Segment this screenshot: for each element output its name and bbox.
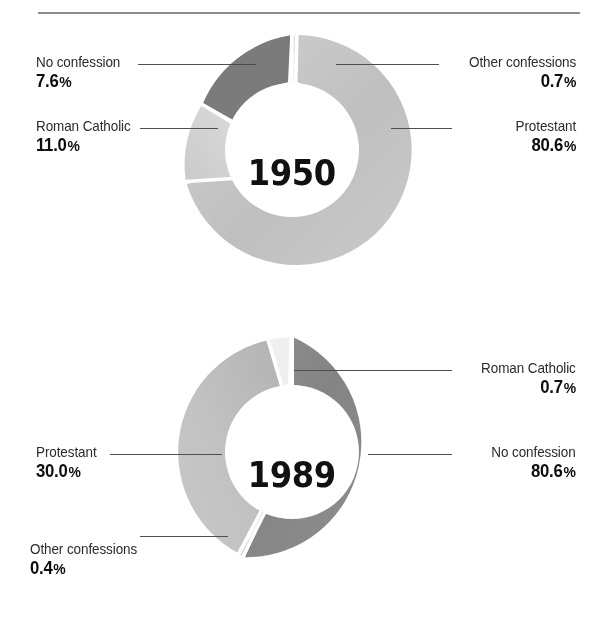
callout-value: 11.0% — [36, 136, 131, 155]
percent-sign: % — [68, 463, 80, 480]
donut-chart-1950 — [170, 28, 414, 318]
callout-value: 7.6% — [36, 72, 120, 91]
callout-value: 30.0% — [36, 462, 97, 481]
callout-value: 0.7% — [481, 378, 576, 397]
figure-root: 1950 No confession 7.6% Roman Catholic 1… — [0, 0, 590, 634]
leader-line-roman-catholic-1989 — [294, 370, 452, 371]
leader-line-protestant-1989 — [110, 454, 222, 455]
callout-value: 80.6% — [492, 462, 576, 481]
callout-no-confession-1950: No confession 7.6% — [36, 55, 127, 91]
callout-roman-catholic-1989: Roman Catholic 0.7% — [474, 361, 576, 397]
callout-protestant-1950: Protestant 80.6% — [511, 119, 576, 155]
callout-other-confessions-1950: Other confessions 0.7% — [461, 55, 576, 91]
donut-hole-1989 — [225, 385, 359, 519]
percent-sign: % — [564, 463, 576, 480]
percent-sign: % — [564, 73, 576, 90]
callout-name: Other confessions — [30, 542, 137, 557]
callout-other-confessions-1989: Other confessions 0.4% — [30, 542, 145, 578]
callout-name: Roman Catholic — [481, 361, 576, 376]
donut-chart-1989 — [170, 330, 414, 620]
leader-line-other-confessions-1989 — [140, 536, 228, 537]
callout-protestant-1989: Protestant 30.0% — [36, 445, 101, 481]
leader-line-roman-catholic-1950 — [140, 128, 218, 129]
leader-line-no-confession-1950 — [138, 64, 256, 65]
callout-name: No confession — [36, 55, 120, 70]
leader-line-no-confession-1989 — [368, 454, 452, 455]
percent-sign: % — [564, 379, 576, 396]
donut-svg-1989 — [170, 330, 414, 620]
callout-no-confession-1989: No confession 80.6% — [485, 445, 576, 481]
callout-name: Roman Catholic — [36, 119, 131, 134]
callout-value: 0.4% — [30, 559, 137, 578]
chart-block-1950: 1950 No confession 7.6% Roman Catholic 1… — [0, 24, 590, 324]
callout-value: 80.6% — [515, 136, 576, 155]
percent-sign: % — [53, 560, 65, 577]
leader-line-protestant-1950 — [391, 128, 452, 129]
callout-name: Protestant — [36, 445, 97, 460]
percent-sign: % — [564, 137, 576, 154]
callout-name: Protestant — [515, 119, 576, 134]
callout-roman-catholic-1950: Roman Catholic 11.0% — [36, 119, 138, 155]
percent-sign: % — [59, 73, 71, 90]
callout-name: Other confessions — [469, 55, 576, 70]
donut-svg-1950 — [170, 28, 414, 318]
percent-sign: % — [67, 137, 79, 154]
donut-hole-1950 — [225, 83, 359, 217]
top-divider-rule — [38, 12, 580, 14]
leader-line-other-confessions-1950 — [336, 64, 439, 65]
callout-name: No confession — [492, 445, 576, 460]
callout-value: 0.7% — [469, 72, 576, 91]
chart-block-1989: 1989 Roman Catholic 0.7% No confession 8… — [0, 326, 590, 626]
